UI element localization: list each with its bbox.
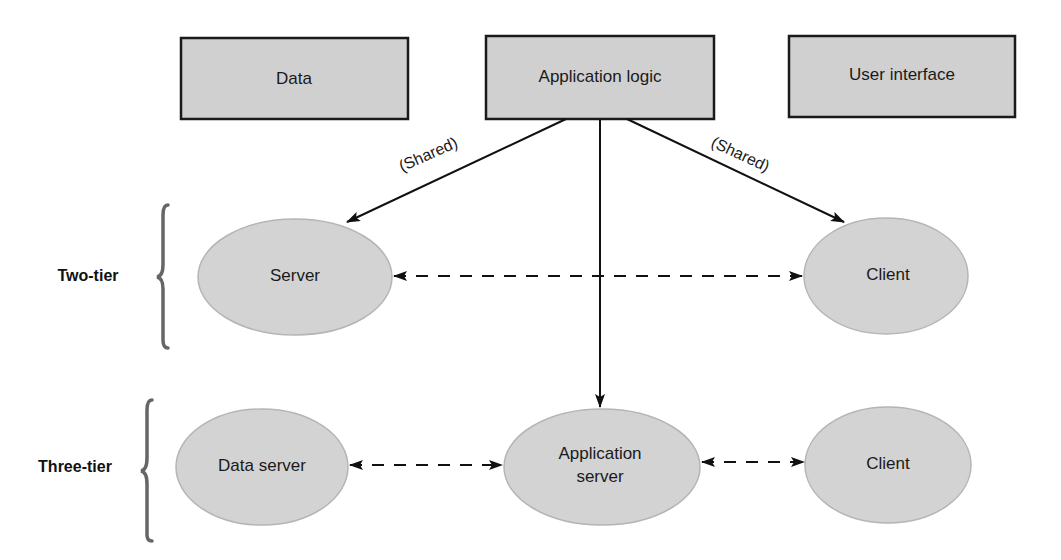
node-label-client-three-tier: Client [866,454,910,473]
brace-three-tier-icon [141,400,152,541]
tier-architecture-diagram: Data Application logic User interface (S… [0,0,1061,560]
layer-label-user-interface: User interface [849,65,955,84]
edge-applogic-to-client [627,119,844,222]
edge-label-shared-right: (Shared) [709,133,773,175]
node-client-two-tier: Client [804,218,968,334]
node-label-client-two-tier: Client [866,265,910,284]
node-label-application-server-line1: Application [558,444,641,463]
layer-label-application-logic: Application logic [539,67,662,86]
node-server: Server [198,219,392,335]
layer-box-application-logic: Application logic [486,36,714,119]
tier-label-two-tier: Two-tier [57,267,118,284]
brace-two-tier-icon [157,205,168,348]
layer-label-data: Data [276,69,312,88]
node-label-application-server-line2: server [576,467,624,486]
node-client-three-tier: Client [805,407,971,523]
layer-box-user-interface: User interface [789,36,1015,117]
node-label-data-server: Data server [218,456,306,475]
node-application-server: Application server [504,409,700,525]
edge-applogic-to-server [347,119,566,222]
layer-box-data: Data [181,38,408,119]
node-label-server: Server [270,266,320,285]
edge-label-shared-left: (Shared) [396,134,460,175]
tier-label-three-tier: Three-tier [38,458,112,475]
node-data-server: Data server [176,409,348,525]
